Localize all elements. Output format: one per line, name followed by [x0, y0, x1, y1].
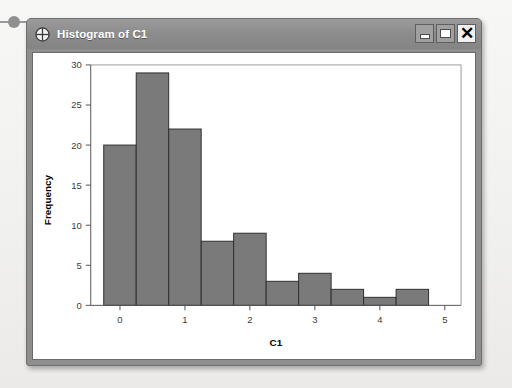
histogram-bars — [104, 73, 429, 305]
histogram-bar — [234, 233, 266, 305]
y-tick-label: 0 — [77, 300, 82, 311]
chart-client-area: 012345 051015202530 C1 Frequency — [32, 52, 476, 360]
y-tick-label: 25 — [71, 99, 82, 110]
x-tick-label: 3 — [312, 314, 317, 325]
y-axis-ticks: 051015202530 — [71, 59, 90, 310]
x-tick-label: 0 — [117, 314, 122, 325]
window-title: Histogram of C1 — [57, 28, 147, 40]
histogram-chart: 012345 051015202530 C1 Frequency — [33, 53, 475, 359]
callout-dot — [8, 16, 20, 28]
window-titlebar[interactable]: Histogram of C1 ✕ — [27, 19, 481, 49]
window-controls: ✕ — [415, 24, 476, 43]
histogram-bar — [266, 281, 298, 305]
y-tick-label: 15 — [71, 180, 82, 191]
x-tick-label: 2 — [247, 314, 252, 325]
x-tick-label: 5 — [442, 314, 447, 325]
histogram-bar — [136, 73, 168, 305]
maximize-icon — [440, 29, 451, 38]
x-axis-label: C1 — [270, 337, 283, 348]
close-icon: ✕ — [460, 25, 474, 42]
histogram-bar — [396, 289, 428, 305]
histogram-bar — [169, 129, 201, 305]
y-tick-label: 5 — [77, 260, 82, 271]
x-tick-label: 1 — [182, 314, 187, 325]
crosshair-globe-icon — [35, 27, 50, 42]
histogram-window: Histogram of C1 ✕ 012345 051015202530 C1… — [26, 18, 482, 366]
y-tick-label: 30 — [71, 59, 82, 70]
x-tick-label: 4 — [377, 314, 382, 325]
y-axis-label: Frequency — [42, 174, 53, 225]
histogram-bar — [104, 145, 136, 305]
minimize-button[interactable] — [415, 24, 434, 43]
histogram-bar — [331, 289, 363, 305]
histogram-bar — [201, 241, 233, 305]
close-button[interactable]: ✕ — [457, 24, 476, 43]
x-axis-ticks: 012345 — [117, 305, 447, 325]
minimize-icon — [420, 34, 430, 39]
y-tick-label: 10 — [71, 220, 82, 231]
maximize-button[interactable] — [436, 24, 455, 43]
y-tick-label: 20 — [71, 140, 82, 151]
histogram-bar — [299, 273, 331, 305]
histogram-bar — [364, 297, 396, 305]
